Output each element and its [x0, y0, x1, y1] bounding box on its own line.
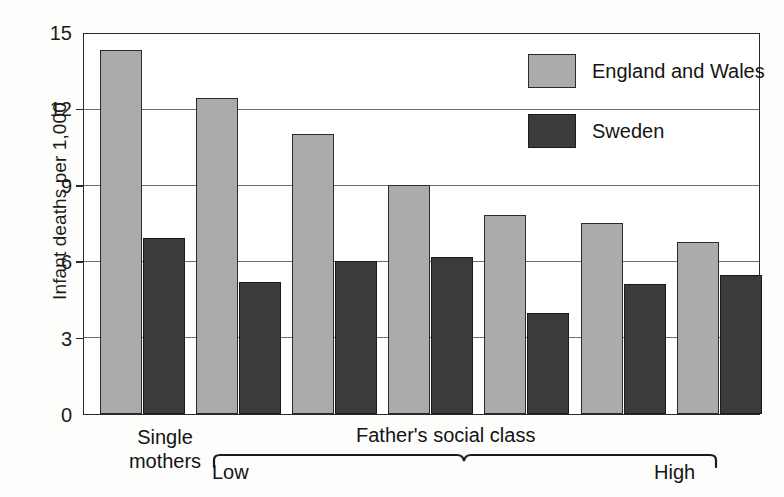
bar-england-wales-3	[388, 185, 430, 414]
legend: England and WalesSweden	[528, 52, 765, 172]
bar-sweden-2	[335, 261, 377, 414]
legend-swatch-icon-sweden	[528, 114, 576, 148]
legend-swatch-icon-england-wales	[528, 54, 576, 88]
infant-mortality-bar-chart: Infant deaths per 1,000 15129630 England…	[0, 0, 784, 497]
legend-label: Sweden	[592, 120, 664, 143]
bar-england-wales-6	[677, 242, 719, 414]
y-tick-label-15: 15	[0, 22, 72, 45]
bar-sweden-5	[624, 284, 666, 414]
bar-sweden-6	[720, 275, 762, 414]
y-tick-label-3: 3	[0, 327, 72, 350]
bar-sweden-1	[239, 282, 281, 414]
bar-england-wales-1	[196, 98, 238, 414]
bar-england-wales-2	[292, 134, 334, 414]
bar-sweden-4	[527, 313, 569, 414]
social-class-brace-icon	[212, 452, 718, 468]
bar-england-wales-0	[100, 50, 142, 414]
y-tick-label-12: 12	[0, 98, 72, 121]
x-label-social-class: Father's social class	[356, 424, 535, 447]
y-tick-label-6: 6	[0, 251, 72, 274]
x-label-single-mothers: Single mothers	[110, 425, 220, 474]
legend-item-sweden: Sweden	[528, 112, 765, 150]
bar-england-wales-5	[581, 223, 623, 414]
legend-item-england-wales: England and Wales	[528, 52, 765, 90]
y-tick-label-0: 0	[0, 404, 72, 427]
legend-label: England and Wales	[592, 60, 765, 83]
x-label-single-mothers-line2: mothers	[110, 449, 220, 473]
x-label-single-mothers-line1: Single	[110, 425, 220, 449]
bar-sweden-3	[431, 257, 473, 414]
y-tick-label-9: 9	[0, 174, 72, 197]
bar-sweden-0	[143, 238, 185, 414]
bar-england-wales-4	[484, 215, 526, 414]
